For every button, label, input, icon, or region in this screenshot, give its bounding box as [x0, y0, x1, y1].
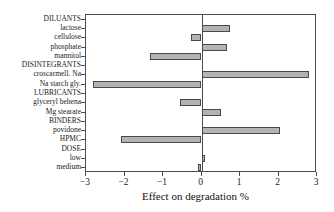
bar [202, 44, 228, 51]
x-axis-tick [85, 172, 86, 176]
x-axis-tick [201, 172, 202, 176]
bar [93, 81, 202, 88]
x-axis-tick [316, 172, 317, 176]
y-axis-tick-label: croscarmell. Na [34, 70, 81, 78]
x-axis-tick [162, 172, 163, 176]
bar-row [86, 52, 315, 62]
x-axis-tick-label: 3 [301, 177, 331, 188]
x-axis-tick [239, 172, 240, 176]
bar [202, 71, 310, 78]
y-axis-tick-label: phosphate [51, 43, 81, 51]
bar [180, 99, 202, 106]
x-axis-tick [124, 172, 125, 176]
bar [202, 25, 231, 32]
bar [198, 164, 201, 171]
x-axis-tick-label: 2 [263, 177, 293, 188]
y-axis-tick-label: DOSE [61, 145, 81, 153]
bar [191, 34, 201, 41]
y-axis-tick-label: LUBRICANTS [34, 89, 81, 97]
bar-row [86, 108, 315, 118]
y-axis-tick-label: mannitol [54, 52, 81, 60]
y-axis-tick-label: medium [56, 163, 81, 171]
x-axis-tick-label: 0 [186, 177, 216, 188]
bar [150, 53, 201, 60]
bar [202, 127, 281, 134]
x-axis-tick-label: −3 [70, 177, 100, 188]
y-axis-tick-label: Mg stearate [46, 108, 81, 116]
bar-row [86, 135, 315, 145]
y-axis-tick-label: cellulose [54, 33, 81, 41]
y-axis-tick-label: povidone [53, 126, 81, 134]
y-axis-tick-label: DISINTEGRANTS [22, 61, 81, 69]
bar-row [86, 80, 315, 90]
y-axis-tick-label: lactose [60, 24, 81, 32]
y-axis-tick-label: DILUANTS [44, 15, 82, 23]
y-axis-tick-label: Na starch gly. [40, 80, 81, 88]
y-axis-tick-label: glyceryl behena [33, 98, 81, 106]
bar [202, 155, 206, 162]
plot-area [85, 14, 316, 172]
bar [121, 136, 201, 143]
y-axis-tick-label: low [70, 154, 81, 162]
x-axis-title: Effect on degradation % [0, 190, 334, 203]
x-axis-tick-label: −2 [109, 177, 139, 188]
x-axis-tick [278, 172, 279, 176]
y-axis-labels: DILUANTSlactosecellulosephosphatemannito… [0, 14, 81, 172]
bar [202, 109, 221, 116]
bar-chart: DILUANTSlactosecellulosephosphatemannito… [0, 0, 334, 212]
x-axis-tick-label: 1 [224, 177, 254, 188]
y-axis-tick-label: HPMC [60, 135, 81, 143]
y-axis-tick-label: BINDERS [49, 117, 81, 125]
x-axis-tick-label: −1 [147, 177, 177, 188]
